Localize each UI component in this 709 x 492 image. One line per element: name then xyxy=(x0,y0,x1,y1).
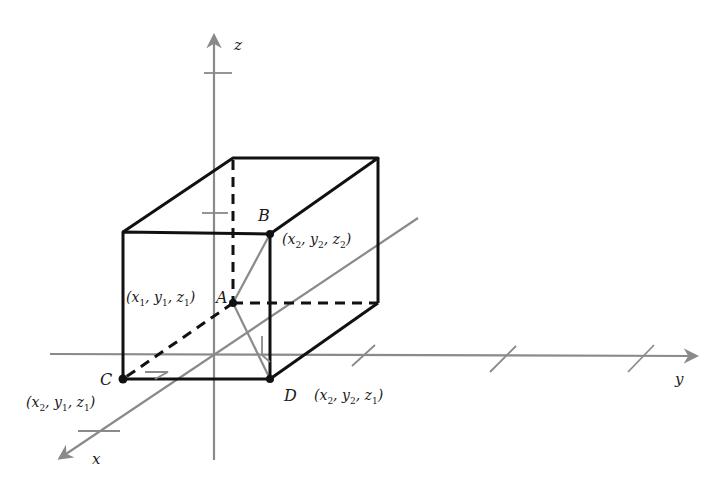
point-B-coords: (x2, y2, z2) xyxy=(282,232,351,250)
point-B-label: B xyxy=(258,208,270,224)
point-D-coords: (x2, y2, z1) xyxy=(314,388,383,406)
point-C-label: C xyxy=(100,372,112,388)
y-tick-2 xyxy=(490,346,516,372)
segment-AD xyxy=(233,303,270,379)
diagram-svg xyxy=(0,0,709,492)
y-axis-label: y xyxy=(675,372,683,387)
point-D-dot xyxy=(266,375,274,383)
point-C-dot xyxy=(119,375,128,384)
point-A-dot xyxy=(229,299,237,307)
point-A-label: A xyxy=(216,290,228,306)
point-A-coords: (x1, y1, z1) xyxy=(126,290,195,308)
top-face-edges xyxy=(123,158,378,234)
x-axis-label: x xyxy=(92,452,100,467)
point-B-dot xyxy=(266,230,274,238)
y-tick-3 xyxy=(628,345,654,372)
bottom-right-edge xyxy=(270,303,378,379)
point-C-coords: (x2, y1, z1) xyxy=(26,395,95,413)
y-axis xyxy=(50,354,696,356)
diagram-canvas: z y x A B C D (x1, y1, z1) (x2, y2, z2) … xyxy=(0,0,709,492)
hidden-edge-AC xyxy=(123,303,233,379)
x-axis xyxy=(60,218,418,458)
z-axis-label: z xyxy=(234,38,242,53)
point-D-label: D xyxy=(284,388,297,404)
segment-AB xyxy=(233,234,270,303)
